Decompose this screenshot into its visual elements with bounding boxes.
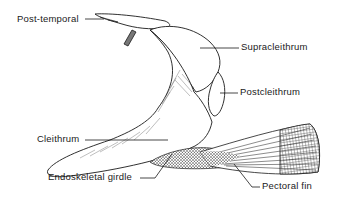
label-post-temporal: Post-temporal xyxy=(17,14,79,24)
pectoral-girdle-diagram: Post-temporal Supracleithrum Postcleithr… xyxy=(0,0,349,220)
pectoral-fin-structure xyxy=(200,124,320,174)
label-supracleithrum: Supracleithrum xyxy=(241,42,308,52)
label-endoskeletal-girdle: Endoskeletal girdle xyxy=(48,172,132,182)
label-postcleithrum: Postcleithrum xyxy=(240,87,300,97)
label-pectoral-fin: Pectoral fin xyxy=(262,181,312,191)
label-cleithrum: Cleithrum xyxy=(37,134,79,144)
